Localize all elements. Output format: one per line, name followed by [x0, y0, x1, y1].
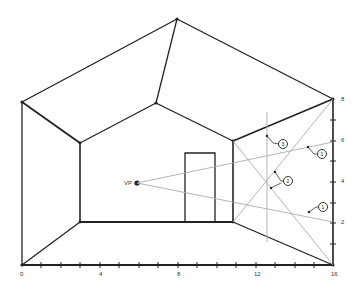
x-tick-label: 8	[177, 271, 180, 277]
y-tick-label: 8	[341, 96, 344, 102]
callout-1: 1	[317, 149, 327, 159]
x-tick-label: 4	[99, 271, 102, 277]
y-tick-label: 6	[341, 137, 344, 143]
callout-3: 3	[278, 139, 288, 149]
x-tick-label: 16	[331, 271, 338, 277]
y-tick-label: 4	[341, 178, 344, 184]
x-tick-label: 0	[20, 271, 23, 277]
perspective-diagram: VP 0 4 8 12 16 2 4 6 8 3 1 2 1	[0, 0, 359, 302]
callout-1: 1	[318, 202, 328, 212]
vp-label: VP	[124, 180, 132, 186]
x-tick-label: 12	[254, 271, 261, 277]
room-drawing	[0, 0, 359, 302]
callout-2: 2	[283, 176, 293, 186]
y-tick-label: 2	[341, 219, 344, 225]
